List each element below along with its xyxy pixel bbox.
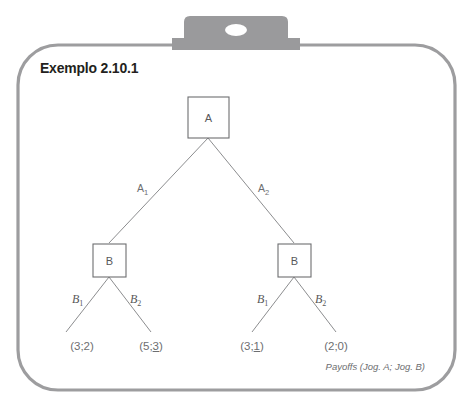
edge-label-b2-right: B2 xyxy=(315,293,326,308)
decision-node-b-right-label: B xyxy=(278,256,311,267)
clipboard-diagram: Exemplo 2.10.1 A B B A1 A2 B1 B2 B1 B2 (… xyxy=(0,0,472,417)
clip-hole xyxy=(225,24,247,36)
edge-label-a2-sub: 2 xyxy=(265,188,269,197)
edge-label-b1-right-sub: 1 xyxy=(264,299,268,308)
payoff-leaf-3: (3;1) xyxy=(230,341,274,353)
edge-label-b2-right-sub: 2 xyxy=(322,299,326,308)
edge-label-a2-text: A xyxy=(258,182,265,194)
edge-label-a2: A2 xyxy=(258,183,269,197)
page-title: Exemplo 2.10.1 xyxy=(40,60,138,76)
edge-label-b1-left: B1 xyxy=(72,293,83,308)
edge-label-a1-text: A xyxy=(137,182,144,194)
clipboard-frame xyxy=(18,45,455,390)
payoff-leaf-2: (5;3) xyxy=(129,341,173,353)
edge-label-b1-left-sub: 1 xyxy=(79,299,83,308)
edge-label-a1-sub: 1 xyxy=(144,188,148,197)
edge-label-b2-left-sub: 2 xyxy=(137,299,141,308)
decision-node-b-left-label: B xyxy=(93,256,126,267)
payoff-caption: Payoffs (Jog. A; Jog. B) xyxy=(230,362,425,372)
edge-label-b1-right: B1 xyxy=(257,293,268,308)
payoff-leaf-4: (2;0) xyxy=(314,341,358,353)
decision-node-a-label: A xyxy=(188,113,229,124)
payoff-leaf-1: (3;2) xyxy=(60,341,104,353)
edge-label-a1: A1 xyxy=(137,183,148,197)
edge-label-b2-left: B2 xyxy=(130,293,141,308)
